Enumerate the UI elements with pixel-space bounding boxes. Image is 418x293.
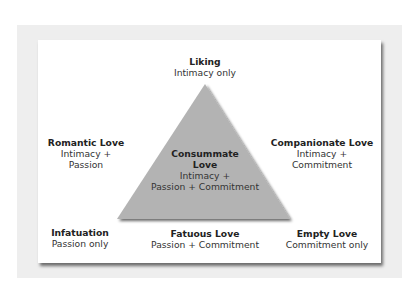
fatuous-love-desc: Passion + Commitment — [151, 239, 259, 250]
fatuous-love-title: Fatuous Love — [151, 228, 259, 239]
companionate-love-desc-2: Commitment — [271, 159, 373, 170]
romantic-love-title: Romantic Love — [48, 137, 124, 148]
label-companionate-love: Companionate Love Intimacy + Commitment — [271, 137, 373, 170]
label-fatuous-love: Fatuous Love Passion + Commitment — [151, 228, 259, 250]
consummate-love-title-2: Love — [151, 159, 259, 170]
infatuation-desc: Passion only — [51, 238, 109, 249]
romantic-love-desc-1: Intimacy + — [48, 148, 124, 159]
label-empty-love: Empty Love Commitment only — [286, 228, 368, 250]
companionate-love-title: Companionate Love — [271, 137, 373, 148]
consummate-love-desc-2: Passion + Commitment — [151, 181, 259, 192]
consummate-love-desc-1: Intimacy + — [151, 170, 259, 181]
consummate-love-title-1: Consummate — [151, 148, 259, 159]
liking-title: Liking — [174, 56, 236, 67]
label-infatuation: Infatuation Passion only — [51, 227, 109, 249]
label-liking: Liking Intimacy only — [174, 56, 236, 78]
label-consummate-love: Consummate Love Intimacy + Passion + Com… — [151, 148, 259, 192]
infatuation-title: Infatuation — [51, 227, 109, 238]
empty-love-title: Empty Love — [286, 228, 368, 239]
romantic-love-desc-2: Passion — [48, 159, 124, 170]
liking-desc: Intimacy only — [174, 67, 236, 78]
companionate-love-desc-1: Intimacy + — [271, 148, 373, 159]
label-romantic-love: Romantic Love Intimacy + Passion — [48, 137, 124, 170]
empty-love-desc: Commitment only — [286, 239, 368, 250]
